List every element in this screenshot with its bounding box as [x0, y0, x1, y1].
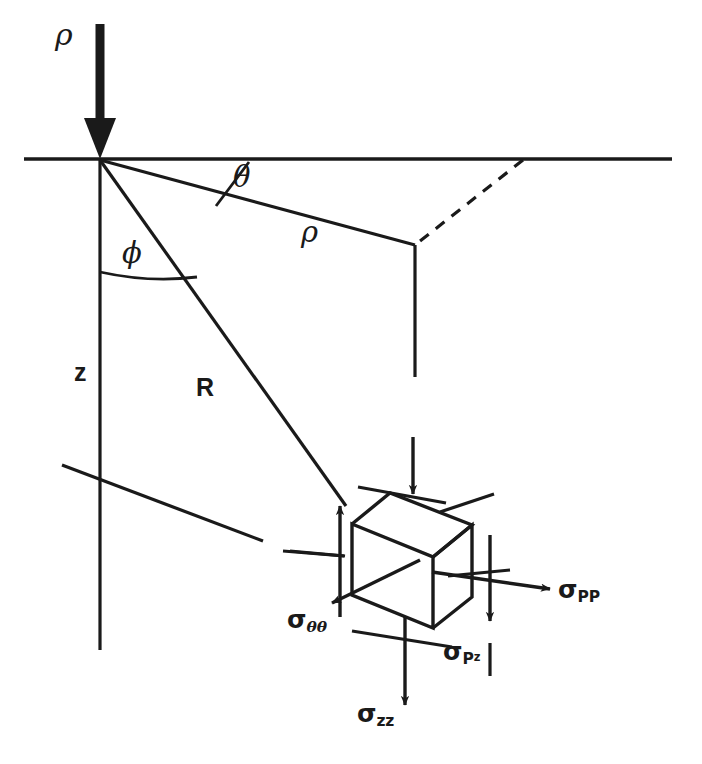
phi-angle-label: ϕ [122, 239, 142, 268]
sigma-pp-subscript: PP [577, 588, 599, 606]
cube-front-face [352, 524, 433, 628]
z-depth-label: z [74, 360, 87, 385]
dashed-projection-line [415, 160, 523, 245]
R-slant-line [100, 160, 346, 506]
sigma-glyph: σ [558, 575, 577, 604]
right-arrow-tick-upper [440, 494, 494, 512]
sigma-glyph: σ [357, 699, 376, 728]
rho-radial-label: ρ [301, 218, 318, 247]
sigma-zz-arrow-tick [352, 631, 452, 647]
sigma-pp-label: σPP [558, 577, 600, 606]
R-slant-label: R [196, 375, 214, 400]
sigma-theta-theta-arrow [332, 560, 420, 603]
sigma-pz-subscript-z: z [474, 650, 481, 664]
sigma-pz-label: σPz [443, 639, 480, 668]
sigma-theta-theta-label: σθθ [287, 607, 327, 635]
rho-radial-line [100, 160, 415, 245]
top-arrow-tick [358, 487, 446, 503]
sigma-zz-label: σzz [357, 701, 394, 730]
sigma-zz-subscript: zz [376, 712, 394, 730]
applied-load-arrow-head [84, 118, 116, 159]
sigma-pz-subscript-p: P [462, 650, 473, 668]
theta-angle-label: θ [233, 163, 250, 192]
diagram-canvas [0, 0, 702, 764]
sigma-glyph: σ [287, 605, 306, 634]
stress-element-diagram: ρ θ ρ ϕ z R σθθ σPP σPz σzz [0, 0, 702, 764]
sigma-theta-theta-subscript: θθ [306, 617, 326, 636]
z-leader-line [62, 465, 263, 541]
sigma-glyph: σ [443, 637, 462, 666]
load-label: ρ [55, 20, 73, 50]
